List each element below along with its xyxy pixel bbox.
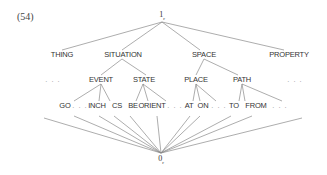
node-thing: THING (51, 50, 73, 59)
node-event: EVENT (89, 75, 113, 84)
node-be: BE (128, 101, 138, 110)
bottom-node: 0r (158, 154, 164, 165)
node-to: TO (229, 101, 239, 110)
node-orient: ORIENT (138, 101, 165, 110)
example-number: (54) (17, 11, 34, 22)
node-ellipsis-4: . . . (272, 101, 287, 110)
node-property: PROPERTY (269, 50, 309, 59)
node-from: FROM (245, 101, 266, 110)
node-ellipsis-1: . . . (72, 101, 87, 110)
node-ellipsis-left: . . . (45, 75, 60, 84)
node-ellipsis-2: . . . (167, 101, 182, 110)
node-situation: SITUATION (104, 50, 142, 59)
node-state: STATE (133, 75, 155, 84)
node-place: PLACE (184, 75, 208, 84)
node-ellipsis-right: . . . (287, 75, 302, 84)
top-node: 1r (159, 10, 165, 21)
top-node-subscript: r (163, 16, 165, 21)
node-ellipsis-3: . . . (211, 101, 226, 110)
node-on: ON (198, 101, 209, 110)
bottom-node-subscript: r (162, 160, 164, 165)
node-go: GO (59, 101, 70, 110)
node-path: PATH (233, 75, 251, 84)
lattice-diagram: (54) 1r THING SITUATION SPACE PROPERTY .… (0, 0, 327, 175)
diagram-edges (0, 0, 327, 175)
node-space: SPACE (192, 50, 216, 59)
node-at: AT (185, 101, 194, 110)
node-cs: CS (112, 101, 122, 110)
node-inch: INCH (88, 101, 106, 110)
